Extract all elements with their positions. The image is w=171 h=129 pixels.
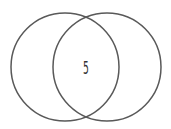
venn-diagram: 5	[0, 0, 171, 129]
venn-circle-left	[11, 13, 119, 121]
venn-circle-right	[53, 13, 161, 121]
intersection-count: 5	[83, 58, 89, 77]
